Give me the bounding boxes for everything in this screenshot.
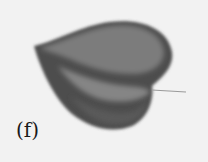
figure-panel: (f) (0, 0, 208, 162)
stem (152, 90, 186, 92)
panel-label: (f) (16, 118, 39, 142)
